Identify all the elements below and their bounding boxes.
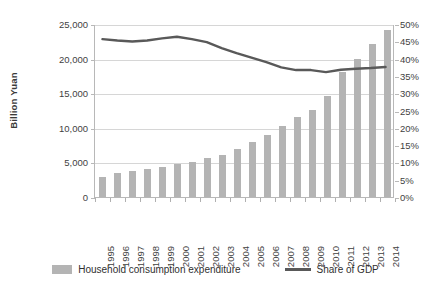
y-axis-right-tick-label: 10% [400,158,419,168]
y-axis-left-tick-label: 5,000 [64,158,88,168]
y-axis-right-tick-label: 15% [400,141,419,151]
y-axis-left-tick-label: 10,000 [59,124,88,134]
chart-legend: Household consumption expenditure Share … [0,258,431,280]
y-axis-title-text: Billion Yuan [8,72,19,129]
y-axis-right-tick-label: 25% [400,107,419,117]
y-axis-left-tick [91,129,95,130]
y-axis-left-tick-label: 20,000 [59,55,88,65]
y-axis-right-tick [395,112,399,113]
y-axis-right-tick [395,129,399,130]
legend-item-household-consumption-expenditure[interactable]: Household consumption expenditure [52,264,240,275]
y-axis-left-tick [91,163,95,164]
y-axis-right-tick-label: 50% [400,20,419,30]
y-axis-right-tick-label: 30% [400,89,419,99]
y-axis-right-tick [395,60,399,61]
y-axis-left-tick [91,25,95,26]
line-path [102,37,385,72]
y-axis-left-labels: 05,00010,00015,00020,00025,000 [22,0,94,200]
y-axis-right-tick-label: 0% [400,193,414,203]
legend-label-bar: Household consumption expenditure [78,264,240,275]
y-axis-right-tick [395,25,399,26]
y-axis-right-tick [395,146,399,147]
y-axis-right-tick-label: 5% [400,176,414,186]
y-axis-left-tick-label: 15,000 [59,89,88,99]
y-axis-left-tick [91,94,95,95]
plot-area [94,25,394,198]
chart-container: Billion Yuan 05,00010,00015,00020,00025,… [0,0,431,293]
y-axis-right-tick-label: 20% [400,124,419,134]
y-axis-right-tick [395,181,399,182]
legend-line-swatch-icon [285,268,311,271]
y-axis-right-labels: 0%5%10%15%20%25%30%35%40%45%50% [396,0,431,200]
legend-label-line: Share of GDP [317,264,379,275]
y-axis-left-tick-label: 0 [83,193,88,203]
y-axis-right-tick [395,163,399,164]
y-axis-right-tick [395,198,399,199]
y-axis-title: Billion Yuan [2,0,24,200]
line-series-share-of-gdp [95,25,393,197]
y-axis-left-tick [91,198,95,199]
y-axis-right-tick [395,94,399,95]
legend-bar-swatch-icon [52,265,72,274]
y-axis-right-tick-label: 35% [400,72,419,82]
y-axis-right-tick-label: 45% [400,37,419,47]
y-axis-left-tick [91,60,95,61]
y-axis-right-tick-label: 40% [400,55,419,65]
y-axis-left-tick-label: 25,000 [59,20,88,30]
x-axis-labels: 1995199619971998199920002001200220032004… [94,202,394,248]
y-axis-right-tick [395,42,399,43]
y-axis-right-tick [395,77,399,78]
legend-item-share-of-gdp[interactable]: Share of GDP [285,264,379,275]
